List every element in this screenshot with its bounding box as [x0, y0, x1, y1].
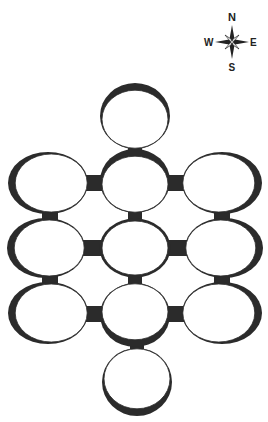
room-r1c3 — [182, 152, 262, 214]
room-r3c1 — [8, 282, 88, 344]
compass-rose: N S E W — [204, 11, 257, 73]
room-r3c3 — [182, 282, 262, 344]
room-r2c3 — [185, 218, 263, 278]
room-r2c1 — [7, 218, 85, 278]
room-bottom — [102, 348, 172, 416]
compass-north-label: N — [228, 11, 236, 23]
compass-east-label: E — [250, 37, 257, 48]
compass-star-icon — [215, 25, 249, 59]
room-top — [100, 83, 170, 149]
room-r1c1 — [8, 152, 88, 214]
compass-south-label: S — [229, 62, 236, 73]
room-r2c2 — [100, 219, 171, 278]
compass-west-label: W — [204, 37, 214, 48]
rooms — [7, 83, 263, 416]
room-r1c2 — [100, 149, 170, 213]
room-r3c2 — [100, 283, 170, 347]
dungeon-map: N S E W — [0, 0, 268, 422]
